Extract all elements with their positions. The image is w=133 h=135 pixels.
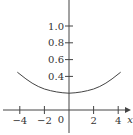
y-tick-label: 0.8 bbox=[48, 37, 64, 48]
x-axis-label: x bbox=[127, 114, 133, 125]
axes bbox=[3, 0, 131, 133]
x-tick-label: −2 bbox=[37, 115, 52, 126]
x-axis-arrow-icon bbox=[125, 107, 131, 113]
origin-label: 0 bbox=[58, 114, 64, 125]
y-tick-label: 0.6 bbox=[48, 54, 64, 65]
chart: −4−2240x0.40.60.81.0 bbox=[0, 0, 133, 135]
x-tick-label: 2 bbox=[90, 115, 96, 126]
y-tick-label: 1.0 bbox=[48, 21, 64, 32]
y-tick-label: 0.4 bbox=[48, 71, 64, 82]
x-tick-label: −4 bbox=[12, 115, 27, 126]
x-tick-label: 4 bbox=[115, 115, 121, 126]
